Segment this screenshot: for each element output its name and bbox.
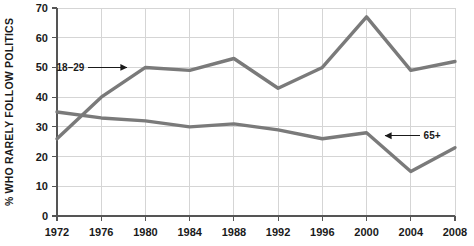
data-series-group bbox=[57, 17, 455, 172]
chart-container: 010203040506070 197219761980198419881992… bbox=[0, 0, 474, 246]
axes bbox=[57, 8, 455, 216]
y-tick-label: 30 bbox=[36, 121, 48, 133]
x-tick-label: 1988 bbox=[222, 226, 246, 238]
line-chart: 010203040506070 197219761980198419881992… bbox=[0, 0, 474, 246]
annotation-arrowhead bbox=[120, 64, 127, 71]
y-tick-label: 40 bbox=[36, 91, 48, 103]
annotation-label-65-: 65+ bbox=[424, 130, 441, 141]
x-tick-label: 2008 bbox=[443, 226, 467, 238]
annotations-group: 18–2965+ bbox=[57, 62, 441, 141]
gridlines bbox=[57, 8, 455, 216]
y-tick-label: 20 bbox=[36, 151, 48, 163]
y-tick-label: 50 bbox=[36, 61, 48, 73]
series-line-65- bbox=[57, 112, 455, 171]
x-tick-label: 2000 bbox=[354, 226, 378, 238]
annotation-label-18-29: 18–29 bbox=[57, 62, 85, 73]
x-tick-label: 2004 bbox=[399, 226, 424, 238]
y-axis-label: % WHO RARELY FOLLOW POLITICS bbox=[3, 18, 15, 206]
x-tick-label: 1984 bbox=[177, 226, 202, 238]
x-tick-label: 1976 bbox=[89, 226, 113, 238]
x-axis-ticks: 1972197619801984198819921996200020042008 bbox=[45, 216, 467, 238]
y-axis-ticks: 010203040506070 bbox=[36, 2, 57, 222]
x-tick-label: 1980 bbox=[133, 226, 157, 238]
x-tick-label: 1992 bbox=[266, 226, 290, 238]
y-tick-label: 0 bbox=[42, 210, 48, 222]
x-tick-label: 1996 bbox=[310, 226, 334, 238]
y-tick-label: 10 bbox=[36, 180, 48, 192]
x-tick-label: 1972 bbox=[45, 226, 69, 238]
annotation-arrowhead bbox=[385, 132, 392, 139]
y-tick-label: 60 bbox=[36, 32, 48, 44]
y-tick-label: 70 bbox=[36, 2, 48, 14]
